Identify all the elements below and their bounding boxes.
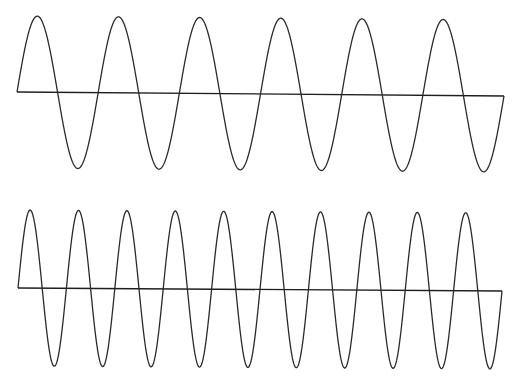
top-sine-wave (17, 16, 504, 172)
bottom-sine-wave (18, 210, 502, 369)
bottom-sine-wave-group (18, 210, 502, 369)
top-sine-wave-group (17, 16, 504, 172)
waveform-diagram (0, 0, 516, 378)
